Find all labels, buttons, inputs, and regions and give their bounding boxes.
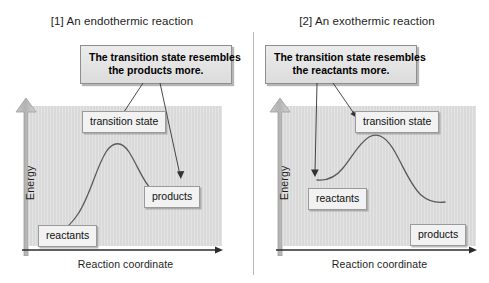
callout-line-2: the reactants more. <box>293 64 390 76</box>
tag-products-exothermic: products <box>410 224 466 246</box>
reaction-energy-diagram-figure: [1] An endothermic reaction Energy React… <box>0 0 489 283</box>
panel-exothermic: [2] An exothermic reaction Energy Reacti… <box>245 0 489 283</box>
callout-line-1: The transition state resembles <box>274 51 426 63</box>
y-axis-label-endothermic: Energy <box>24 166 36 200</box>
tag-products-endothermic: products <box>144 186 200 208</box>
panel-title-endothermic: [1] An endothermic reaction <box>0 14 244 28</box>
callout-line-2: the products more. <box>108 64 203 76</box>
tag-transition-state-exothermic: transition state <box>355 111 439 133</box>
x-axis-label-exothermic: Reaction coordinate <box>283 258 476 270</box>
callout-line-1: The transition state resembles <box>89 51 241 63</box>
panel-endothermic: [1] An endothermic reaction Energy React… <box>0 0 244 283</box>
callout-exothermic: The transition state resembles the react… <box>265 45 417 84</box>
tag-transition-state-endothermic: transition state <box>82 111 166 133</box>
x-axis-label-endothermic: Reaction coordinate <box>29 258 222 270</box>
tag-reactants-endothermic: reactants <box>38 225 97 247</box>
panel-title-exothermic: [2] An exothermic reaction <box>245 14 489 28</box>
y-axis-label-exothermic: Energy <box>278 166 290 200</box>
callout-endothermic: The transition state resembles the produ… <box>80 45 232 84</box>
tag-reactants-exothermic: reactants <box>308 188 367 210</box>
